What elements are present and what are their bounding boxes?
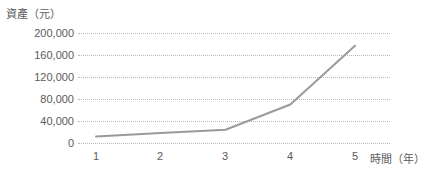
x-tick-label: 1 <box>93 150 99 162</box>
x-tick-label: 5 <box>352 150 358 162</box>
line-chart: 資產（元） 時間（年） 200,000 160,000 120,000 80,0… <box>0 0 430 173</box>
x-tick-label: 2 <box>157 150 163 162</box>
x-tick-label: 3 <box>222 150 228 162</box>
data-series-line <box>96 46 355 137</box>
x-tick-label: 4 <box>287 150 293 162</box>
plot-area <box>0 0 430 173</box>
